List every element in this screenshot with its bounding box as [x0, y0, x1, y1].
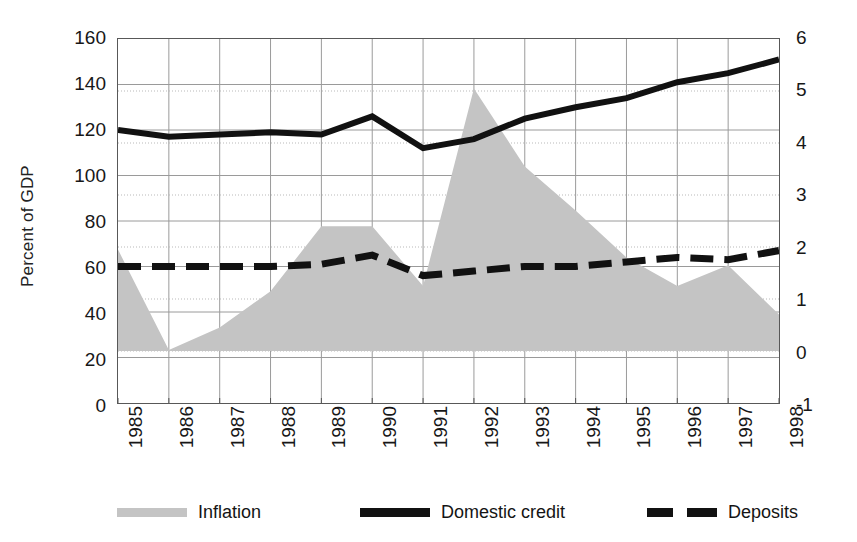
- legend-item-inflation: Inflation: [117, 500, 261, 524]
- left-tick-140: 140: [38, 74, 106, 93]
- plot-area: [117, 38, 780, 404]
- legend-item-domestic-credit: Domestic credit: [360, 500, 565, 524]
- right-tick-4: 4: [796, 133, 852, 152]
- left-axis-ticks: 160 140 120 100 80 60 40 20 0: [38, 0, 106, 542]
- chart-canvas: [118, 39, 779, 403]
- legend-item-deposits: Deposits: [647, 500, 798, 524]
- solid-line-swatch-icon: [360, 508, 430, 517]
- x-tick-1989: 1989: [328, 406, 350, 486]
- y-axis-title: Percent of GDP: [18, 136, 38, 316]
- x-tick-1995: 1995: [633, 406, 655, 486]
- left-tick-80: 80: [38, 212, 106, 231]
- right-tick-6: 6: [796, 28, 852, 47]
- left-tick-120: 120: [38, 120, 106, 139]
- x-tick-1990: 1990: [379, 406, 401, 486]
- x-tick-1986: 1986: [176, 406, 198, 486]
- x-tick-1987: 1987: [227, 406, 249, 486]
- area-swatch-icon: [117, 508, 187, 517]
- x-tick-1985: 1985: [125, 406, 147, 486]
- left-tick-160: 160: [38, 28, 106, 47]
- left-tick-20: 20: [38, 350, 106, 369]
- x-tick-1988: 1988: [278, 406, 300, 486]
- legend-label-domestic-credit: Domestic credit: [441, 502, 565, 523]
- left-tick-100: 100: [38, 166, 106, 185]
- chart-figure: Percent of GDP 160 140 120 100 80 60 40 …: [0, 0, 857, 542]
- x-tick-1998: 1998: [786, 406, 808, 486]
- x-tick-1997: 1997: [735, 406, 757, 486]
- x-tick-1994: 1994: [583, 406, 605, 486]
- right-tick-0: 0: [796, 343, 852, 362]
- right-tick-1: 1: [796, 290, 852, 309]
- x-tick-1992: 1992: [481, 406, 503, 486]
- right-tick-2: 2: [796, 238, 852, 257]
- x-tick-1991: 1991: [430, 406, 452, 486]
- left-tick-40: 40: [38, 304, 106, 323]
- legend-label-deposits: Deposits: [728, 502, 798, 523]
- x-axis-labels: 1985198619871988198919901991199219931994…: [117, 408, 780, 488]
- left-tick-60: 60: [38, 258, 106, 277]
- right-tick-3: 3: [796, 185, 852, 204]
- bottom-axis-ticks: [118, 398, 779, 403]
- dashed-line-swatch-icon: [647, 508, 717, 517]
- right-tick-5: 5: [796, 80, 852, 99]
- x-tick-1996: 1996: [684, 406, 706, 486]
- series-line-domestic-credit: [118, 59, 779, 148]
- chart-legend: Inflation Domestic credit Deposits: [117, 500, 817, 530]
- left-tick-0: 0: [38, 396, 106, 415]
- legend-label-inflation: Inflation: [198, 502, 261, 523]
- x-tick-1993: 1993: [532, 406, 554, 486]
